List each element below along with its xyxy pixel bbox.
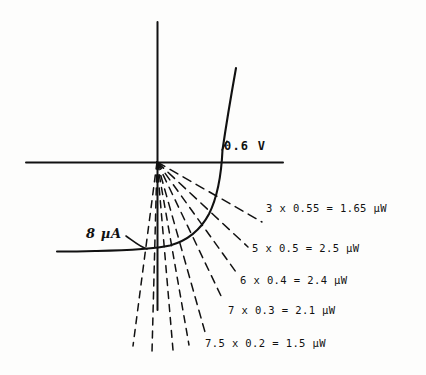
power-annotation-2: 5 x 0.5 = 2.5 µW: [252, 243, 360, 254]
current-label-leader: [126, 236, 147, 249]
power-annotation-5: 7.5 x 0.2 = 1.5 µW: [205, 338, 326, 349]
load-line-6: [157, 162, 189, 345]
load-line-fan: [133, 162, 262, 352]
power-annotation-4: 7 x 0.3 = 2.1 µW: [228, 305, 336, 316]
power-annotation-3: 6 x 0.4 = 2.4 µW: [240, 275, 348, 286]
figure-canvas: [0, 0, 426, 375]
load-line-2: [157, 162, 248, 247]
diode-iv-figure: 0.6 V 8 µA 3 x 0.55 = 1.65 µW 5 x 0.5 = …: [0, 0, 426, 375]
load-line-3: [157, 162, 236, 272]
power-annotation-1: 3 x 0.55 = 1.65 µW: [266, 203, 387, 214]
current-axis-label: 8 µA: [86, 227, 122, 240]
voltage-axis-label: 0.6 V: [224, 140, 266, 152]
diode-iv-curve: [57, 68, 236, 252]
